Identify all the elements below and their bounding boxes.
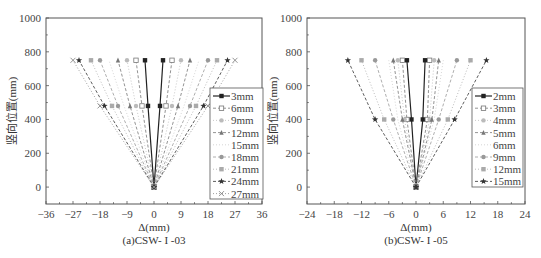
x-tick-label: 18 <box>203 208 215 220</box>
y-tick-label: 1000 <box>19 12 42 24</box>
series-18mm <box>98 58 210 189</box>
legend-label: 5mm <box>493 127 516 139</box>
legend-label: 3mm <box>493 102 516 114</box>
y-tick-label: 200 <box>286 147 303 159</box>
y-axis-title: 竖向位置(mm) <box>266 76 280 145</box>
legend-label: 4mm <box>493 114 516 126</box>
legend-label: 2mm <box>493 90 516 102</box>
chart-caption: (b)CSW- I -05 <box>384 234 448 247</box>
y-tick-label: 400 <box>286 113 303 125</box>
y-axis-title: 竖向位置(mm) <box>5 76 19 145</box>
series-15mm <box>109 60 199 187</box>
x-tick-label: 12 <box>465 208 476 220</box>
chart-b: −24−18−12−60612182402004006008001000Δ(mm… <box>266 12 531 247</box>
y-tick-label: 0 <box>297 181 303 193</box>
x-tick-label: −12 <box>353 208 370 220</box>
series-3mm <box>143 58 165 189</box>
legend-label: 12mm <box>231 127 260 139</box>
x-tick-label: 0 <box>151 208 157 220</box>
x-tick-label: −18 <box>91 208 109 220</box>
series-12mm <box>359 58 472 189</box>
x-tick-label: −18 <box>326 208 344 220</box>
legend-label: 6mm <box>231 102 254 114</box>
x-tick-label: 9 <box>178 208 184 220</box>
series-6mm <box>389 60 444 187</box>
figure-canvas: −36−27−18−90918273602004006008001000Δ(mm… <box>0 0 541 258</box>
x-tick-label: −9 <box>121 208 133 220</box>
x-tick-label: −27 <box>64 208 82 220</box>
y-tick-label: 800 <box>25 46 42 58</box>
legend-label: 12mm <box>493 163 522 175</box>
series-4mm <box>396 58 437 189</box>
x-tick-label: 6 <box>441 208 447 220</box>
x-tick-label: 36 <box>257 208 269 220</box>
series-9mm <box>125 58 183 189</box>
x-axis-title: Δ(mm) <box>138 221 170 234</box>
legend-label: 15mm <box>231 139 260 151</box>
series-21mm <box>89 58 219 189</box>
y-tick-label: 1000 <box>280 12 303 24</box>
x-tick-label: 27 <box>230 208 242 220</box>
series-3mm <box>400 58 432 189</box>
legend: 3mm6mm9mm12mm15mm18mm21mm24mm27mm <box>210 88 263 200</box>
legend-label: 15mm <box>493 175 522 187</box>
x-tick-label: −24 <box>298 208 316 220</box>
y-tick-label: 600 <box>25 80 42 92</box>
legend-label: 18mm <box>231 151 260 163</box>
y-tick-label: 600 <box>286 80 303 92</box>
series-9mm <box>373 58 459 189</box>
y-tick-label: 400 <box>25 113 42 125</box>
legend-label: 9mm <box>231 114 254 126</box>
legend-label: 3mm <box>231 90 254 102</box>
x-tick-label: 24 <box>520 208 532 220</box>
chart-a: −36−27−18−90918273602004006008001000Δ(mm… <box>5 12 268 247</box>
x-tick-label: −36 <box>37 208 55 220</box>
x-tick-label: 18 <box>492 208 504 220</box>
y-tick-label: 0 <box>36 181 42 193</box>
series-6mm <box>134 58 174 189</box>
legend-label: 24mm <box>231 175 260 187</box>
x-tick-label: 0 <box>413 208 419 220</box>
legend-label: 6mm <box>493 139 516 151</box>
legend-label: 27mm <box>231 188 260 200</box>
series-12mm <box>116 58 192 190</box>
y-tick-label: 800 <box>286 46 303 58</box>
series-2mm <box>405 58 428 189</box>
legend: 2mm3mm4mm5mm6mm9mm12mm15mm <box>472 88 523 187</box>
x-axis-title: Δ(mm) <box>400 221 432 234</box>
y-tick-label: 200 <box>25 147 42 159</box>
x-tick-label: −6 <box>383 208 395 220</box>
chart-caption: (a)CSW- I -03 <box>123 234 186 247</box>
legend-label: 21mm <box>231 163 260 175</box>
legend-label: 9mm <box>493 151 516 163</box>
